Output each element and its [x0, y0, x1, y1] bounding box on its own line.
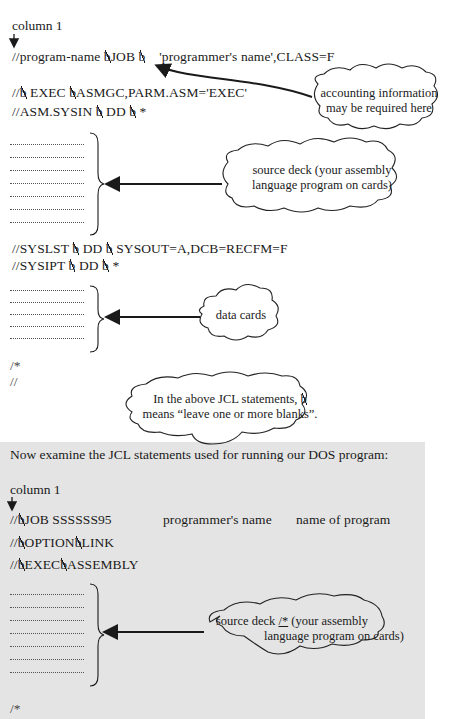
end-of-data-delimiter: /* [10, 358, 21, 374]
blank-symbol: b [18, 535, 25, 551]
dos-intro-text: Now examine the JCL statements used for … [10, 447, 388, 463]
card-row [10, 672, 84, 673]
card-row [10, 646, 84, 647]
callout-text: language program on cards) [228, 178, 416, 193]
callout-text-part: (your assembly [288, 614, 368, 628]
sysipt-ddname: //SYSIPT [12, 258, 69, 273]
card-row [10, 209, 84, 210]
exec-keyword: EXEC [27, 85, 70, 100]
dos-jcl-panel [0, 442, 425, 719]
blank-symbol: b [139, 49, 146, 65]
dd-keyword: DD [75, 258, 102, 273]
callout-text: In the above JCL statements, b [130, 392, 330, 407]
blank-symbol: b [20, 85, 27, 101]
job-prefix: // [10, 512, 18, 527]
card-row [10, 314, 84, 315]
exec-prefix: // [10, 557, 18, 572]
blank-symbol: b [129, 104, 136, 120]
exec-operand: ASSEMBLY [67, 557, 138, 572]
note-text: In the above JCL statements, [153, 392, 297, 406]
data-cards-callout: data cards [206, 308, 276, 323]
card-row [10, 338, 84, 339]
blank-symbol: b [18, 557, 25, 573]
jcl-exec-statement: //b EXEC bASMGC,PARM.ASM='EXEC' [12, 85, 247, 101]
dd-keyword: DD [103, 104, 130, 119]
syslst-ddname: //SYSLST [12, 241, 72, 256]
card-row [10, 183, 84, 184]
jcl-sysipt-statement: //SYSIPT b DD b * [12, 258, 119, 274]
card-row [10, 196, 84, 197]
callout-text: means “leave one or more blanks”. [130, 407, 330, 422]
exec-keyword: EXEC [25, 557, 61, 572]
blank-symbol: b [69, 85, 76, 101]
job-keyword: JOB [111, 49, 135, 64]
dos-source-deck-callout: source deck /* (your assembly language p… [216, 614, 416, 644]
sysipt-operand: * [112, 258, 119, 273]
callout-text: language program on cards) [216, 629, 416, 644]
blank-symbol: b [60, 557, 67, 573]
column-1-label: column 1 [12, 18, 63, 34]
card-row [10, 144, 84, 145]
callout-text: source deck /* (your assembly [216, 614, 416, 629]
dos-job-statement: //bJOB SSSSSS95 [10, 512, 112, 528]
data-cards-brace-icon [90, 286, 104, 352]
dd-keyword: DD [79, 241, 106, 256]
exec-prefix: // [12, 85, 20, 100]
option-keyword: OPTION [25, 535, 75, 550]
blank-symbol: b [69, 258, 76, 274]
card-row [10, 302, 84, 303]
sysin-operand: * [140, 104, 147, 119]
jcl-syslst-statement: //SYSLST b DD b SYSOUT=A,DCB=RECFM=F [12, 241, 288, 257]
blank-symbol: b [18, 512, 25, 528]
source-deck-brace-icon [90, 133, 104, 235]
programmer-name-field: programmer's name [163, 512, 272, 528]
end-marker-glyph: /* [278, 614, 288, 628]
callout-text: accounting information [314, 86, 444, 101]
source-deck-callout: source deck (your assembly language prog… [228, 163, 416, 193]
blank-symbol: b [106, 241, 113, 257]
blank-symbol: b [96, 104, 103, 120]
card-row [10, 607, 84, 608]
blank-symbol: b [301, 392, 307, 407]
card-row [10, 620, 84, 621]
card-row [10, 326, 84, 327]
card-row [10, 222, 84, 223]
jcl-job-statement: //program-name bJOB b 'programmer's name… [12, 49, 334, 65]
end-of-data-delimiter: /* [10, 701, 21, 717]
syslst-operand: SYSOUT=A,DCB=RECFM=F [116, 241, 288, 256]
accounting-callout: accounting information may be required h… [314, 86, 444, 116]
option-operand: LINK [82, 535, 115, 550]
exec-operand: ASMGC,PARM.ASM='EXEC' [76, 85, 247, 100]
blank-symbol: b [72, 241, 79, 257]
dos-option-statement: //bOPTIONbLINK [10, 535, 114, 551]
job-accounting-text: 'programmer's name',CLASS=F [159, 49, 334, 64]
dos-exec-statement: //bEXECbASSEMBLY [10, 557, 139, 573]
card-row [10, 633, 84, 634]
job-keyword: JOB SSSSSS95 [25, 512, 112, 527]
callout-text: may be required here [314, 101, 444, 116]
option-prefix: // [10, 535, 18, 550]
callout-text-part: source deck [216, 614, 278, 628]
blank-symbol-note-callout: In the above JCL statements, b means “le… [130, 392, 330, 422]
card-row [10, 290, 84, 291]
job-name-text: //program-name [12, 49, 104, 64]
program-name-field: name of program [296, 512, 390, 528]
card-row [10, 170, 84, 171]
blank-symbol: b [75, 535, 82, 551]
end-of-job-delimiter: // [10, 374, 18, 390]
card-row [10, 594, 84, 595]
callout-text: source deck (your assembly [228, 163, 416, 178]
card-row [10, 659, 84, 660]
card-row [10, 157, 84, 158]
column-1-label: column 1 [10, 482, 61, 498]
blank-symbol: b [102, 258, 109, 274]
blank-symbol: b [104, 49, 111, 65]
jcl-sysin-statement: //ASM.SYSIN b DD b * [12, 104, 146, 120]
sysin-ddname: //ASM.SYSIN [12, 104, 96, 119]
